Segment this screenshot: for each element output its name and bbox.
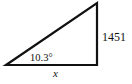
adjacent-side-label: x [52,67,58,79]
opposite-side-label: 1451 [102,30,126,44]
triangle-diagram: 10.3° 1451 x [0,0,132,84]
angle-label: 10.3° [30,52,53,63]
